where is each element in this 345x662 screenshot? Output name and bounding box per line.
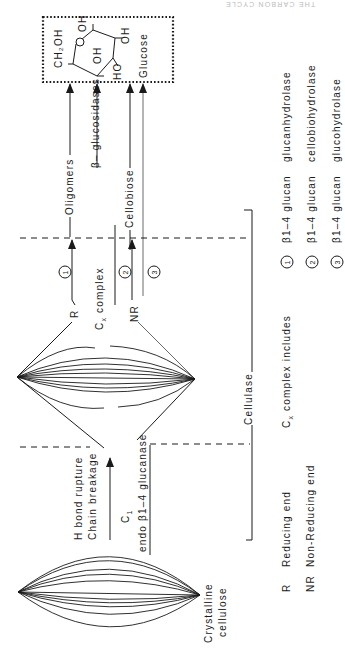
glucose-box: CH₂OH OH OH OH HO Glucose [43,15,173,82]
legend-enzyme-3-bond: β1–4 glucan [331,175,342,243]
svg-text:3: 3 [151,269,158,274]
legend-nr-value: Non-Reducing end [305,464,316,567]
endo-glucanase-label: endo β1–4 glucanase [137,433,148,552]
reducing-end-label: R [69,310,80,318]
cellulose-label: cellulose [217,587,228,637]
oh-label-2: OH [92,47,103,64]
step-3-badge: 3 [148,266,160,278]
legend-enzyme-1-num: 1 [284,259,291,264]
legend-enzyme-3-num: 3 [334,259,341,264]
legend-enzyme-3-name: glucohydrolase [331,78,342,162]
legend-enzyme-2-bond: β1–4 glucan [306,175,317,243]
legend-enzyme-1-bond: β1–4 glucan [281,175,292,243]
ch2oh-label: CH₂OH [53,29,64,68]
legend-nr-key: NR [305,575,316,592]
oligomers-label: Oligomers [64,159,75,215]
c1-label: C1 [120,509,133,523]
cellulase-label: Cellulase [243,373,254,425]
legend-enzyme-1-name: glucanhydrolase [281,71,292,162]
crystalline-label: Crystalline [203,583,214,643]
step-1-badge: 1 [59,266,71,278]
legend: R Reducing end NR Non-Reducing end Cx co… [281,64,343,592]
svg-text:1: 1 [62,269,69,274]
step-2-badge: 2 [119,266,131,278]
oh-label-3: OH [120,27,131,44]
cx-complex-label: Cx complex [94,267,107,330]
beta-glucosidases-label: β– glucosidases [90,78,101,168]
legend-enzyme-2-name: cellobiohydrolase [306,64,317,162]
crystalline-cellulose-fiber [18,557,200,627]
cellobiose-label: Cellobiose [124,169,135,228]
ho-label: HO [112,63,123,80]
legend-r-value: Reducing end [281,491,292,567]
oh-label-1: OH [77,15,88,32]
legend-r-key: R [281,584,292,592]
non-reducing-end-label: NR [129,305,140,322]
amorphous-cellulose-fiber [17,322,195,448]
legend-enzyme-2-num: 2 [309,259,316,264]
glucose-label: Glucose [138,33,149,78]
legend-cx-includes: Cx complex includes [281,315,294,428]
chain-breakage-label: Chain breakage [87,453,98,540]
cellulose-degradation-diagram: THE CARBON CYCLE CH₂OH OH OH OH HO [0,0,345,662]
svg-text:2: 2 [122,269,129,274]
running-header: THE CARBON CYCLE [225,1,315,8]
h-bond-rupture-label: H bond rupture [73,456,84,540]
